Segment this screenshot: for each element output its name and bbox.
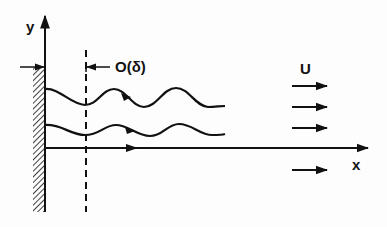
- diagram-canvas: y x U O(δ): [0, 0, 387, 227]
- wall-hatch: [33, 67, 45, 212]
- lower-wavy-streamline: [45, 124, 225, 136]
- flow-diagram: [0, 0, 387, 227]
- delta-label: O(δ): [115, 59, 146, 74]
- straight-streamline-arrowhead: [126, 144, 138, 152]
- velocity-label: U: [300, 61, 311, 76]
- x-axis-label: x: [352, 157, 360, 172]
- upper-wavy-streamline: [45, 88, 225, 107]
- y-axis-label: y: [26, 19, 34, 34]
